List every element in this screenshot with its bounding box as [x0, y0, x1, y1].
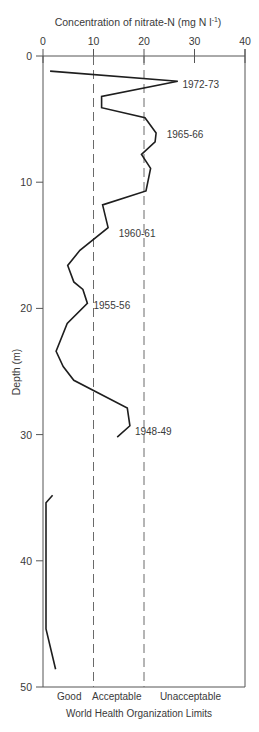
- x-tick-label: 30: [189, 35, 201, 47]
- year-label: 1972-73: [182, 79, 219, 90]
- y-tick-label: 0: [26, 50, 32, 62]
- who-zone-label: Unacceptable: [160, 691, 222, 702]
- x-tick-label: 20: [138, 35, 150, 47]
- nitrate-depth-chart: Concentration of nitrate-N (mg N l-1) 01…: [0, 0, 259, 732]
- x-tick-label: 40: [239, 35, 251, 47]
- year-label: 1948-49: [135, 426, 172, 437]
- y-tick-label: 50: [20, 681, 32, 693]
- who-limits-title: World Health Organization Limits: [66, 708, 212, 719]
- y-tick-labels: 01020304050: [20, 50, 32, 693]
- x-axis-title: Concentration of nitrate-N (mg N l-1): [55, 16, 222, 28]
- reference-lines: [94, 56, 145, 687]
- y-tick-label: 20: [20, 302, 32, 314]
- x-tick-labels: 010203040: [40, 35, 251, 47]
- data-series: [46, 71, 178, 669]
- who-zone-labels: GoodAcceptableUnacceptable: [57, 691, 221, 702]
- y-tick-label: 10: [20, 176, 32, 188]
- y-axis-title: Depth (m): [10, 349, 22, 396]
- nitrate-profile-line: [46, 495, 56, 669]
- year-label: 1965-66: [167, 129, 204, 140]
- who-zone-label: Good: [57, 691, 81, 702]
- year-label: 1955-56: [94, 300, 131, 311]
- who-zone-label: Acceptable: [92, 691, 142, 702]
- x-tick-label: 10: [88, 35, 100, 47]
- y-tick-label: 40: [20, 555, 32, 567]
- year-label: 1960-61: [119, 228, 156, 239]
- x-tick-label: 0: [40, 35, 46, 47]
- y-tick-label: 30: [20, 429, 32, 441]
- axes: [36, 49, 245, 687]
- nitrate-profile-line: [50, 71, 178, 437]
